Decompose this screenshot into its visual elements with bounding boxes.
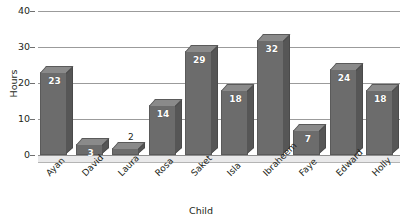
y-axis-tick-label: 0 <box>4 150 30 160</box>
bar-value-label: 14 <box>150 109 177 119</box>
bar-slot: 3 <box>76 11 112 155</box>
bar-value-label: 3 <box>77 148 104 158</box>
bar[interactable]: 24 <box>330 69 357 155</box>
bar[interactable]: 23 <box>40 72 67 155</box>
bar-value-label: 18 <box>367 94 394 104</box>
bar-slot: 18 <box>221 11 257 155</box>
bar-value-label: 18 <box>222 94 249 104</box>
bar-slot: 29 <box>185 11 221 155</box>
bar-slot: 32 <box>257 11 293 155</box>
y-axis-tick <box>30 119 35 120</box>
bar[interactable]: 18 <box>366 90 393 155</box>
bar[interactable]: 7 <box>293 130 320 155</box>
bar[interactable]: 3 <box>76 144 103 155</box>
bar-slot: 23 <box>40 11 76 155</box>
bar[interactable]: 29 <box>185 51 212 155</box>
chart-title-clipped <box>0 0 402 6</box>
y-axis-tick-label: 40 <box>4 6 30 16</box>
plot-area: 010203040 23321429183272418 AyanDavidLau… <box>38 11 400 155</box>
bar[interactable]: 18 <box>221 90 248 155</box>
bar-slot: 7 <box>293 11 329 155</box>
y-axis-tick <box>30 11 35 12</box>
bar-value-label: 29 <box>186 55 213 65</box>
y-axis-tick <box>30 47 35 48</box>
bar-slot: 14 <box>149 11 185 155</box>
bar-value-label: 24 <box>331 73 358 83</box>
bar[interactable]: 14 <box>149 105 176 155</box>
bar-slot: 24 <box>330 11 366 155</box>
y-axis-tick-label: 30 <box>4 42 30 52</box>
bar-chart: Hours 010203040 23321429183272418 AyanDa… <box>0 0 402 219</box>
bar-value-label: 2 <box>117 132 144 142</box>
bar-slot: 2 <box>112 11 148 155</box>
y-axis-tick <box>30 155 35 156</box>
y-axis-tick <box>30 83 35 84</box>
bar-value-label: 7 <box>294 134 321 144</box>
x-axis-label: Child <box>0 205 402 216</box>
y-axis-tick-label: 20 <box>4 78 30 88</box>
bar-value-label: 23 <box>41 76 68 86</box>
bar-slot: 18 <box>366 11 402 155</box>
bar[interactable]: 32 <box>257 40 284 155</box>
bar-value-label: 32 <box>258 44 285 54</box>
bar-side-face <box>175 99 182 154</box>
y-axis-tick-label: 10 <box>4 114 30 124</box>
